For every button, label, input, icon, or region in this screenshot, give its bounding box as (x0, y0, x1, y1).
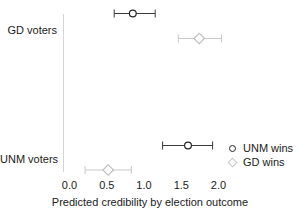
y-axis-label-unm-voters: UNM voters (0, 154, 57, 165)
legend-item-unm-wins: UNM wins (226, 141, 298, 155)
errorbar-unm-wins-unm-voters (163, 142, 213, 150)
diamond-marker-icon (226, 155, 240, 169)
x-tick-label-0: 0.0 (62, 180, 77, 191)
errorbar-gd-wins-unm-voters (85, 165, 131, 175)
point-marker-unm-wins-gd-voters (129, 10, 136, 17)
x-axis-title: Predicted credibility by election outcom… (52, 197, 248, 208)
x-tick-label-4: 2.0 (211, 180, 226, 191)
errorbar-unm-wins-gd-voters (114, 10, 155, 18)
legend: UNM wins GD wins (226, 141, 298, 169)
legend-label-unm-wins: UNM wins (240, 143, 293, 154)
point-marker-unm-wins-unm-voters (185, 142, 192, 149)
point-marker-gd-wins-unm-voters (103, 165, 113, 175)
x-tick-label-1: 0.5 (99, 180, 114, 191)
circle-marker-icon (226, 141, 240, 155)
legend-item-gd-wins: GD wins (226, 155, 298, 169)
chart-figure: GD voters UNM voters 0.0 0.5 1.0 1.5 2.0… (0, 0, 300, 217)
point-marker-gd-wins-gd-voters (194, 33, 204, 43)
y-axis-label-gd-voters: GD voters (0, 25, 57, 36)
errorbar-gd-wins-gd-voters (178, 33, 221, 43)
x-tick-label-2: 1.0 (136, 180, 151, 191)
legend-label-gd-wins: GD wins (240, 157, 285, 168)
x-tick-label-3: 1.5 (174, 180, 189, 191)
